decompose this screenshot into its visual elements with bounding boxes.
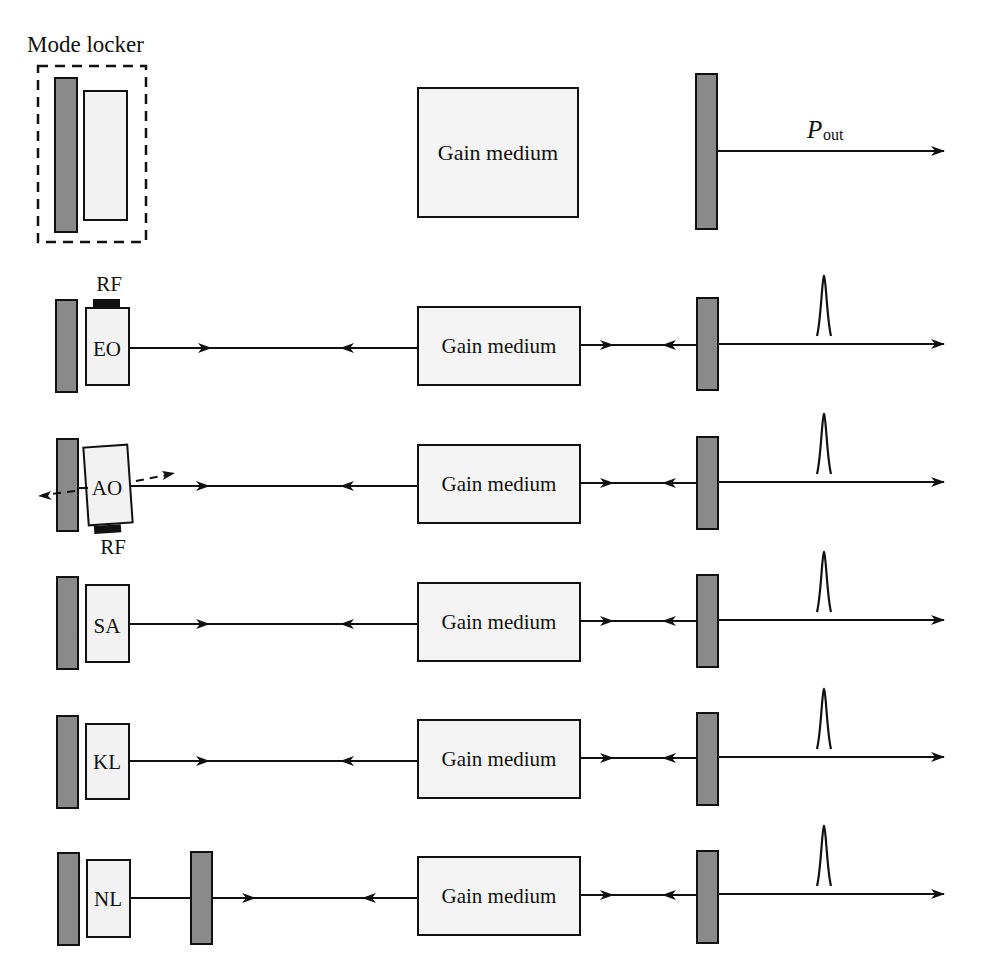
pulse-icon [817, 276, 831, 336]
mode-locking-diagram: Mode locker Gain medium P out RF EO Gain… [0, 0, 982, 974]
rf-label: RF [100, 535, 126, 559]
gain-medium-label: Gain medium [442, 334, 557, 358]
row-eo: RF EO Gain medium [56, 272, 944, 392]
pulse-icon [817, 414, 831, 474]
row-kl: KL Gain medium [57, 689, 944, 808]
mirror-left [57, 577, 78, 669]
output-coupler-mirror [697, 298, 718, 390]
element-label: SA [94, 614, 122, 638]
rf-label: RF [96, 272, 122, 296]
output-coupler-mirror [697, 575, 718, 667]
pout-label-main: P [806, 116, 822, 143]
row-ao: AO RF Gain medium [38, 414, 944, 559]
pulse-icon [817, 826, 831, 886]
mode-locker-label: Mode locker [27, 32, 144, 57]
arrow-diffracted-icon [38, 491, 52, 500]
mode-locker-element [84, 91, 127, 220]
row-sa: SA Gain medium [57, 552, 944, 669]
mirror-left [57, 716, 78, 808]
gain-medium-label: Gain medium [442, 884, 557, 908]
pulse-icon [817, 552, 831, 612]
pout-label-sub: out [823, 126, 844, 143]
gain-medium-label: Gain medium [442, 747, 557, 771]
element-label: EO [93, 337, 121, 361]
gain-medium-label: Gain medium [442, 472, 557, 496]
row-nl: NL Gain medium [58, 826, 944, 945]
element-label: KL [93, 750, 121, 774]
output-coupler-mirror [697, 437, 718, 529]
mirror-left [55, 78, 77, 232]
output-coupler-mirror [697, 713, 718, 805]
mirror-left [58, 853, 79, 945]
mirror-left [57, 439, 78, 531]
top-panel: Mode locker Gain medium P out [27, 32, 944, 242]
gain-medium-label: Gain medium [438, 140, 558, 165]
gain-medium-label: Gain medium [442, 610, 557, 634]
intracavity-mirror [191, 852, 212, 944]
pulse-icon [817, 689, 831, 749]
rf-electrode [93, 299, 120, 307]
element-label: AO [92, 476, 122, 500]
output-coupler-mirror [696, 74, 717, 229]
element-label: NL [94, 887, 122, 911]
mirror-left [56, 300, 77, 392]
output-coupler-mirror [697, 851, 718, 943]
